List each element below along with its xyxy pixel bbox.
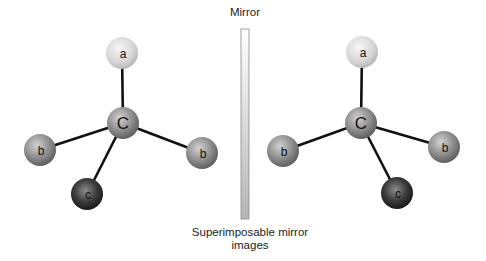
atom-label: C [117, 114, 129, 133]
atom-b: b [186, 137, 218, 169]
atom-label: b [442, 141, 449, 155]
atom-b: b [24, 134, 56, 166]
molecule-right: abbcC [267, 36, 460, 209]
atom-center-C: C [345, 107, 377, 139]
caption-line-2: images [170, 239, 330, 252]
atom-b: b [428, 131, 460, 163]
atom-c: c [71, 178, 103, 210]
atom-center-C: C [107, 107, 139, 139]
atom-label: c [395, 187, 401, 201]
atom-label: b [200, 147, 207, 161]
atom-label: b [38, 144, 45, 158]
atom-a: a [346, 36, 378, 68]
atom-label: b [281, 145, 288, 159]
caption-line-1: Superimposable mirror [170, 226, 330, 239]
diagram-caption: Superimposable mirror images [170, 226, 330, 252]
atom-a: a [106, 37, 138, 69]
atom-label: a [360, 46, 367, 60]
molecule-left: abbcC [24, 37, 218, 210]
atom-c: c [381, 177, 413, 209]
atom-b: b [267, 135, 299, 167]
atom-label: a [120, 47, 127, 61]
mirror-label: Mirror [200, 6, 290, 18]
atom-label: c [85, 188, 91, 202]
atom-label: C [355, 114, 367, 133]
mirror [241, 29, 249, 219]
mirror-image-diagram: abbcC abbcC [0, 0, 486, 261]
